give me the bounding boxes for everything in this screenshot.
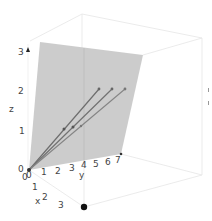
y-tick-1: 1: [41, 167, 47, 177]
3d-plot[interactable]: 3 2 z 1 0 0 1 2 3 4 5 6 7 y 0 1 2 x 3: [0, 0, 212, 221]
z-tick-2: 2: [18, 86, 24, 96]
vector-1-mid-marker: [63, 128, 66, 131]
y-tick-7: 7: [115, 155, 121, 165]
x-tick-3: 3: [58, 200, 64, 210]
y-tick-5: 5: [93, 159, 99, 169]
vector-2-mid-marker: [72, 126, 75, 129]
y-axis-label: y: [79, 170, 85, 180]
clipped-label-fragment: [208, 88, 209, 92]
z-axis-label: z: [9, 104, 14, 114]
z-tick-3: 3: [18, 47, 24, 57]
x-axis-label: x: [35, 196, 41, 206]
z-tick-1: 1: [19, 126, 25, 136]
vector-1-tip-marker: [98, 88, 101, 91]
y-tick-4: 4: [81, 160, 87, 170]
y-tick-6: 6: [105, 157, 111, 167]
z-axis-arrow-icon: [26, 47, 30, 52]
y-tick-3: 3: [69, 163, 75, 173]
vector-3-tip-marker: [124, 88, 127, 91]
x-tick-2: 2: [42, 192, 48, 202]
x-tick-1: 1: [32, 182, 38, 192]
x-tick-0: 0: [22, 172, 28, 182]
vector-3-mid-marker: [80, 125, 82, 127]
clipped-label-fragment: [208, 101, 209, 105]
vector-2-tip-marker: [111, 88, 114, 91]
y-tick-2: 2: [55, 166, 61, 176]
corner-marker: [81, 204, 87, 210]
